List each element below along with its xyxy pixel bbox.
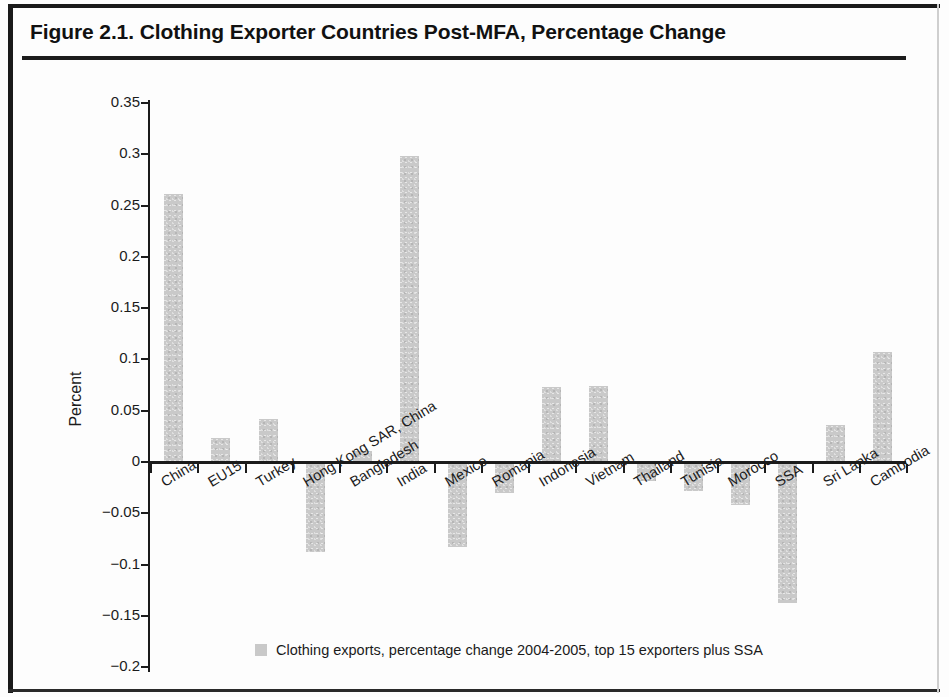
bar: [826, 425, 845, 462]
y-axis-tick-text: 0.35: [78, 93, 140, 110]
bar: [259, 419, 278, 462]
y-axis-tick-label: 0.25: [70, 196, 140, 214]
chart-legend: Clothing exports, percentage change 2004…: [255, 642, 763, 658]
x-axis-tick: [812, 464, 814, 473]
bar: [211, 438, 230, 462]
y-axis-tick-label: −0.15: [70, 606, 140, 624]
y-axis-tick-text: 0.3: [78, 144, 140, 161]
x-axis-label: India: [394, 460, 429, 490]
bar: [542, 387, 561, 462]
y-axis-tick-label: 0.2: [70, 247, 140, 265]
bar-chart-plot: Percent 0.350.30.250.20.150.10.050−0.05−…: [0, 0, 949, 697]
y-axis-tick-label: 0.15: [70, 298, 140, 316]
y-axis-tick-text: 0.25: [78, 196, 140, 213]
y-axis-tick-label: −0.2: [70, 657, 140, 675]
bar: [873, 352, 892, 462]
y-axis-tick-text: 0.2: [78, 247, 140, 264]
y-axis-tick-text: 0: [78, 452, 140, 469]
y-axis-tick-label: 0: [70, 452, 140, 470]
bar: [164, 194, 183, 462]
x-axis-tick: [434, 464, 436, 473]
y-axis-tick-label: 0.3: [70, 144, 140, 162]
y-axis-tick-text: −0.15: [78, 606, 140, 623]
y-axis-tick-text: −0.1: [78, 555, 140, 572]
y-axis-tick-text: 0.15: [78, 298, 140, 315]
legend-swatch: [255, 644, 267, 656]
figure-page: Figure 2.1. Clothing Exporter Countries …: [0, 0, 949, 697]
legend-label: Clothing exports, percentage change 2004…: [276, 642, 763, 658]
y-axis-line: [148, 100, 150, 672]
y-axis-tick-label: 0.05: [70, 401, 140, 419]
y-axis-tick-text: −0.05: [78, 503, 140, 520]
y-axis-tick-text: −0.2: [78, 657, 140, 674]
y-axis-tick-text: 0.1: [78, 349, 140, 366]
y-axis-tick-text: 0.05: [78, 401, 140, 418]
x-axis-tick: [150, 464, 152, 473]
x-axis-tick: [245, 464, 247, 473]
y-axis-tick-label: 0.35: [70, 93, 140, 111]
y-axis-tick-label: −0.1: [70, 555, 140, 573]
y-axis-tick-label: −0.05: [70, 503, 140, 521]
y-axis-tick-label: 0.1: [70, 349, 140, 367]
